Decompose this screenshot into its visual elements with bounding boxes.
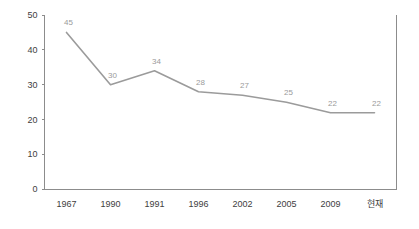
x-tick-label: 1991 — [144, 199, 164, 209]
x-tick-label: 1990 — [100, 199, 120, 209]
y-tick-label: 50 — [27, 10, 37, 20]
data-point-label: 22 — [372, 99, 381, 108]
chart-canvas: 01020304050 1967199019911996200220052009… — [0, 0, 419, 229]
line-chart: 01020304050 1967199019911996200220052009… — [0, 0, 419, 229]
x-tick-label: 1996 — [188, 199, 208, 209]
x-tick-label: 2002 — [232, 199, 252, 209]
x-tick-label: 1967 — [56, 199, 76, 209]
y-tick-label: 20 — [27, 115, 37, 125]
y-tick-label: 0 — [32, 184, 37, 194]
data-point-label: 25 — [284, 88, 293, 97]
x-tick-label-group: 1967199019911996200220052009현재 — [56, 199, 382, 209]
x-tick-label: 현재 — [367, 199, 383, 209]
y-tick-label: 30 — [27, 80, 37, 90]
data-point-label: 30 — [108, 71, 117, 80]
y-tick-label-group: 01020304050 — [27, 10, 37, 195]
x-tick-label: 2009 — [320, 199, 340, 209]
data-point-label: 28 — [196, 78, 205, 87]
data-point-label: 45 — [64, 18, 73, 27]
data-point-label: 27 — [240, 81, 249, 90]
y-tick-label: 10 — [27, 149, 37, 159]
y-tick-label: 40 — [27, 45, 37, 55]
data-point-label: 34 — [152, 57, 161, 66]
x-tick-label: 2005 — [276, 199, 296, 209]
data-point-label: 22 — [328, 99, 337, 108]
